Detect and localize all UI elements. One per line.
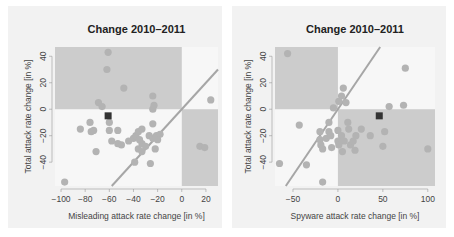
y-axis: −40−2002040 [38, 51, 52, 169]
x-tick-label: −20 [150, 194, 165, 204]
data-point [328, 144, 335, 151]
scatter-plot-spyware: −50050100−40−2002040Change 2010–2011Spyw… [232, 6, 446, 228]
y-tick-label: 40 [38, 51, 48, 61]
data-point [358, 125, 365, 132]
x-tick-label: 0 [336, 194, 341, 204]
data-point [131, 159, 138, 166]
shaded-quadrant [275, 47, 338, 109]
data-point [149, 106, 156, 113]
data-point [147, 160, 154, 167]
data-point [342, 99, 349, 106]
y-axis: −40−2002040 [258, 51, 272, 169]
data-point [319, 145, 326, 152]
data-point [207, 96, 214, 103]
x-tick-label: −50 [286, 194, 301, 204]
chart-title: Change 2010–2011 [306, 23, 404, 35]
data-point [351, 147, 358, 154]
data-point [92, 148, 99, 155]
data-point [344, 119, 351, 126]
data-point [149, 92, 156, 99]
x-tick-label: 50 [378, 194, 388, 204]
data-point [138, 148, 145, 155]
chart-panel-spyware: −50050100−40−2002040Change 2010–2011Spyw… [232, 6, 446, 228]
data-point [330, 104, 337, 111]
data-point [400, 102, 407, 109]
data-point [105, 49, 112, 56]
x-axis-label: Misleading attack rate change [in %] [68, 211, 205, 221]
data-point [98, 103, 105, 110]
highlight-point-marker [376, 112, 383, 119]
data-point [77, 125, 84, 132]
data-point [325, 119, 332, 126]
data-point [316, 128, 323, 135]
data-point [345, 125, 352, 132]
y-tick-label: 0 [38, 107, 48, 112]
y-tick-label: −20 [38, 128, 48, 143]
x-tick-label: 0 [179, 194, 184, 204]
data-point [381, 128, 388, 135]
x-axis: −100−80−60−40−20020 [51, 189, 210, 204]
data-point [86, 119, 93, 126]
x-tick-label: 100 [421, 194, 435, 204]
highlight-point-marker [105, 112, 112, 119]
chart-panel-misleading: −100−80−60−40−20020−40−2002040Change 201… [8, 6, 222, 228]
data-point [90, 127, 97, 134]
data-point [138, 125, 145, 132]
data-point [149, 120, 156, 127]
data-point [386, 103, 393, 110]
data-point [340, 84, 347, 91]
data-point [335, 98, 342, 105]
y-tick-label: −40 [258, 155, 268, 170]
x-tick-label: 20 [201, 194, 211, 204]
x-tick-label: −80 [78, 194, 93, 204]
data-point [319, 178, 326, 185]
data-point [152, 145, 159, 152]
data-point [118, 141, 125, 148]
data-point [402, 65, 409, 72]
y-tick-label: 20 [38, 78, 48, 88]
data-point [114, 127, 121, 134]
scatter-plot-misleading: −100−80−60−40−20020−40−2002040Change 201… [8, 6, 222, 228]
data-point [106, 127, 113, 134]
data-point [284, 50, 291, 57]
y-tick-label: −20 [258, 128, 268, 143]
data-point [424, 145, 431, 152]
y-axis-label: Total attack rate change [in %] [243, 60, 253, 174]
data-point [379, 143, 386, 150]
data-point [120, 84, 127, 91]
data-point [61, 178, 68, 185]
x-tick-label: −40 [126, 194, 141, 204]
y-tick-label: −40 [38, 155, 48, 170]
y-tick-label: 0 [258, 107, 268, 112]
data-point [276, 160, 283, 167]
data-point [367, 132, 374, 139]
y-tick-label: 40 [258, 51, 268, 61]
x-tick-label: −100 [51, 194, 70, 204]
data-point [106, 119, 113, 126]
y-axis-label: Total attack rate change [in %] [23, 60, 33, 174]
y-tick-label: 20 [258, 78, 268, 88]
data-point [201, 144, 208, 151]
data-point [339, 148, 346, 155]
data-point [303, 161, 310, 168]
chart-title: Change 2010–2011 [88, 23, 186, 35]
x-axis: −50050100 [286, 189, 435, 204]
data-point [335, 141, 342, 148]
x-axis-label: Spyware attack rate change [in %] [291, 211, 420, 221]
data-point [350, 137, 357, 144]
shaded-quadrant [55, 47, 182, 109]
x-tick-label: −60 [102, 194, 117, 204]
data-point [154, 136, 161, 143]
data-point [296, 122, 303, 129]
data-point [327, 132, 334, 139]
data-point [103, 66, 110, 73]
